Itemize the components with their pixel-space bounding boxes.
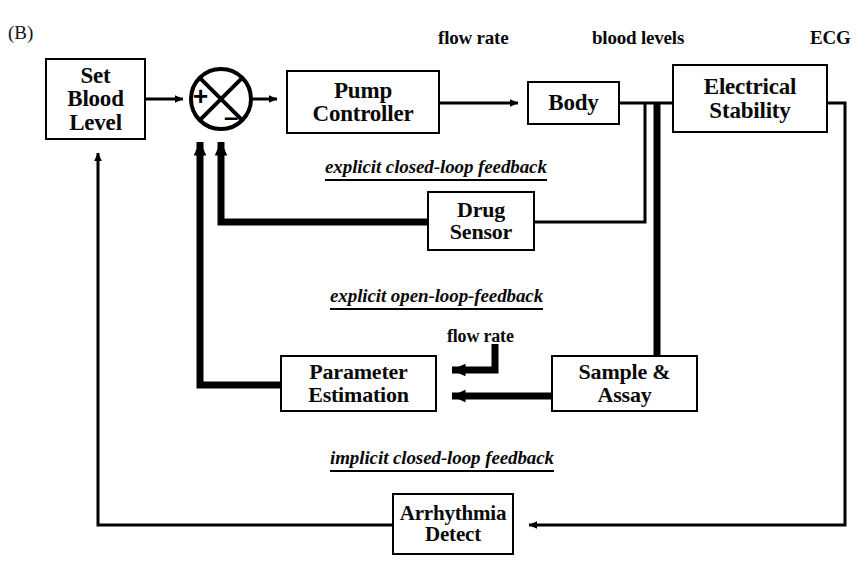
block-arrhythmia-detect-line-0: Arrhythmia (397, 503, 510, 524)
block-set-blood-level-line-0: Set (64, 64, 127, 87)
summing-junction-plus-sign: + (193, 83, 208, 109)
block-body-line-0: Body (545, 91, 601, 114)
block-set-blood-level-line-1: Blood (64, 87, 127, 110)
feedback-label-explicit-open-loop: explicit open-loop-feedback (330, 285, 543, 310)
wire-electrical-stability-to-arrhythmia-detect (529, 103, 845, 525)
block-sample-assay[interactable]: Sample & Assay (551, 355, 698, 412)
signal-label-ecg: ECG (810, 27, 851, 49)
feedback-label-explicit-closed-loop: explicit closed-loop feedback (325, 156, 547, 181)
block-set-blood-level-line-2: Level (64, 111, 127, 134)
block-pump-controller[interactable]: Pump Controller (286, 70, 440, 134)
block-electrical-stability[interactable]: Electrical Stability (672, 64, 828, 133)
summing-junction-minus-sign: – (224, 104, 238, 130)
wire-parameter-estimation-to-sum (200, 142, 280, 385)
block-drug-sensor-line-0: Drug (447, 199, 515, 221)
block-set-blood-level[interactable]: Set Blood Level (45, 58, 146, 140)
block-arrhythmia-detect[interactable]: Arrhythmia Detect (392, 493, 514, 555)
block-diagram-figure: (B) + – flow rate blood levels ECG flow … (0, 0, 867, 569)
wire-drug-sensor-to-sum (221, 142, 427, 222)
block-electrical-stability-line-0: Electrical (701, 75, 800, 98)
signal-label-flow-rate-mid: flow rate (447, 326, 514, 347)
block-drug-sensor[interactable]: Drug Sensor (427, 191, 535, 251)
block-sample-assay-line-0: Sample & (576, 361, 674, 383)
feedback-label-implicit-closed-loop: implicit closed-loop feedback (330, 447, 554, 472)
block-pump-controller-line-0: Pump (309, 79, 416, 102)
panel-tag: (B) (8, 22, 33, 44)
wire-flow-rate-to-parameter-estimation (452, 344, 495, 370)
block-body[interactable]: Body (527, 81, 620, 125)
block-parameter-estimation[interactable]: Parameter Estimation (280, 355, 437, 412)
signal-label-blood-levels: blood levels (592, 27, 684, 49)
block-parameter-estimation-line-1: Estimation (305, 384, 412, 406)
block-drug-sensor-line-1: Sensor (447, 221, 515, 243)
block-parameter-estimation-line-0: Parameter (305, 361, 412, 383)
signal-label-flow-rate-top: flow rate (438, 27, 508, 49)
block-arrhythmia-detect-line-1: Detect (397, 524, 510, 545)
block-pump-controller-line-1: Controller (309, 102, 416, 125)
block-electrical-stability-line-1: Stability (701, 99, 800, 122)
block-sample-assay-line-1: Assay (576, 384, 674, 406)
